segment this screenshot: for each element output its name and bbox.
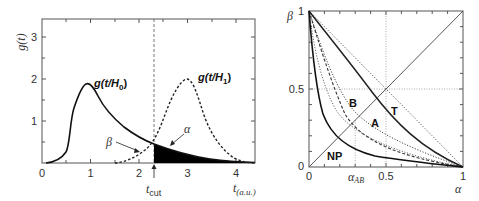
y-tick-1: 1 bbox=[31, 115, 37, 127]
beta-tick-1: 1 bbox=[298, 5, 304, 17]
left-chart: 0 1 2 3 4 1 2 3 g(t) t(a.u.) tcut g(t/H0… bbox=[14, 19, 256, 198]
y-tick-2: 2 bbox=[31, 73, 37, 85]
alpha-arrowhead bbox=[170, 140, 175, 146]
beta-axis-label: β bbox=[286, 9, 293, 23]
x-tick-1: 1 bbox=[87, 167, 93, 179]
left-y-axis-label: g(t) bbox=[14, 33, 28, 50]
beta-arrowhead bbox=[134, 148, 140, 153]
alpha-tick-1: 1 bbox=[460, 170, 466, 182]
alpha-tick-0: 0 bbox=[306, 170, 312, 182]
x-tick-3: 3 bbox=[184, 167, 190, 179]
x-tick-2: 2 bbox=[136, 167, 142, 179]
y-tick-3: 3 bbox=[31, 31, 37, 43]
region-a-label: A bbox=[371, 117, 379, 129]
beta-tick-0: 0 bbox=[298, 160, 304, 172]
region-b-label: B bbox=[349, 97, 357, 109]
left-x-ticks bbox=[66, 19, 236, 163]
left-y-ticks bbox=[42, 37, 255, 142]
region-t-label: T bbox=[391, 105, 398, 117]
alpha-ab-tick: αAB bbox=[348, 170, 364, 185]
figure: 0 1 2 3 4 1 2 3 g(t) t(a.u.) tcut g(t/H0… bbox=[0, 0, 479, 201]
x-tick-0: 0 bbox=[39, 167, 45, 179]
left-x-axis-label: t(a.u.) bbox=[233, 181, 256, 197]
tcut-arrowhead bbox=[152, 164, 157, 169]
g-h0-label: g(t/H0) bbox=[93, 77, 128, 92]
alpha-annotation: α bbox=[184, 122, 191, 136]
beta-annotation: β bbox=[105, 135, 112, 149]
right-chart: NP B A T 0 0.5 1 αAB 0 0.5 1 β α bbox=[286, 5, 466, 196]
region-np-label: NP bbox=[327, 150, 342, 162]
g-h1-label: g(t/H1) bbox=[197, 71, 232, 86]
alpha-tick-0-5: 0.5 bbox=[378, 170, 393, 182]
x-tick-4: 4 bbox=[233, 167, 239, 179]
tcut-label: tcut bbox=[146, 182, 162, 198]
g-h0-curve bbox=[46, 84, 255, 163]
beta-tick-0-5: 0.5 bbox=[289, 83, 304, 95]
alpha-axis-label: α bbox=[455, 182, 462, 196]
